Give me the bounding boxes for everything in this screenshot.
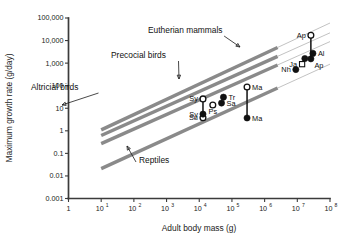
- x-tick-label: 107: [292, 202, 305, 213]
- y-tick-label: 0.01: [50, 171, 64, 180]
- data-point-sy: [200, 111, 206, 117]
- leader-line-altricial-birds: [62, 93, 99, 105]
- x-tick-label: 108: [325, 202, 338, 213]
- data-point-sa: [218, 100, 224, 106]
- svg-text:10: 10: [325, 204, 333, 213]
- point-label-ap: Ap: [314, 61, 323, 70]
- chart-figure: 100,00010,0001,0001001010.10.010.001 110…: [0, 0, 341, 237]
- svg-text:4: 4: [204, 202, 207, 208]
- svg-text:1: 1: [67, 204, 71, 213]
- svg-text:5: 5: [237, 202, 240, 208]
- svg-text:10: 10: [259, 204, 267, 213]
- svg-text:8: 8: [335, 202, 338, 208]
- x-tick-label: 106: [259, 202, 272, 213]
- x-tick-label: 103: [161, 202, 174, 213]
- band-altricial-birds: [101, 65, 277, 144]
- connector-lines: [203, 35, 311, 118]
- svg-text:10: 10: [161, 204, 169, 213]
- x-tick-label: 104: [194, 202, 207, 213]
- x-axis-title: Adult body mass (g): [162, 223, 237, 233]
- leader-line-precocial-birds: [179, 61, 180, 79]
- x-tick-label: 101: [96, 202, 109, 213]
- y-tick-label: 1: [60, 126, 64, 135]
- y-tick-label: 100,000: [38, 13, 64, 22]
- data-point-sy: [200, 96, 206, 102]
- data-point-ma: [244, 84, 250, 90]
- leader-line-eutherian-mammals: [224, 36, 240, 47]
- y-axis-title: Maximum growth rate (g/day): [4, 53, 14, 162]
- point-label-tr: Tr: [228, 93, 235, 102]
- x-tick-label: 105: [226, 202, 239, 213]
- svg-text:10: 10: [194, 204, 202, 213]
- y-tick-label: 1,000: [46, 59, 64, 68]
- band-annotation-precocial-birds: Precocial birds: [111, 50, 166, 60]
- svg-text:7: 7: [302, 202, 305, 208]
- data-point-ap: [302, 55, 308, 61]
- data-point-ja: [299, 62, 304, 67]
- y-axis-ticks: 100,00010,0001,0001001010.10.010.001: [38, 13, 69, 203]
- data-point-al: [310, 50, 316, 56]
- x-tick-label: 102: [128, 202, 141, 213]
- svg-text:10: 10: [226, 204, 234, 213]
- y-tick-label: 0.001: [46, 194, 64, 203]
- leader-arrow-reptiles: [127, 146, 130, 150]
- svg-text:3: 3: [171, 202, 174, 208]
- point-label-ja: Ja: [289, 60, 298, 69]
- band-lines: [101, 23, 330, 169]
- y-tick-label: 10,000: [42, 36, 64, 45]
- point-label-al: Al: [318, 49, 325, 58]
- x-axis-ticks: 1101102103104105106107108: [67, 199, 338, 213]
- point-label-sy: Sy: [189, 110, 198, 119]
- point-label-ps: Ps: [209, 107, 218, 116]
- data-point-ma: [244, 115, 250, 121]
- band-annotation-reptiles: Reptiles: [139, 155, 169, 165]
- svg-text:1: 1: [106, 202, 109, 208]
- point-label-ma: Ma: [252, 83, 263, 92]
- svg-text:10: 10: [292, 204, 300, 213]
- svg-text:6: 6: [269, 202, 272, 208]
- svg-text:10: 10: [128, 204, 136, 213]
- band-annotation-altricial-birds: Altricial birds: [31, 82, 78, 92]
- band-annotation-eutherian-mammals: Eutherian mammals: [148, 25, 222, 35]
- point-label-ap: Ap: [297, 31, 306, 40]
- svg-text:2: 2: [138, 202, 141, 208]
- svg-text:10: 10: [96, 204, 104, 213]
- point-label-sy: Sy: [189, 94, 198, 103]
- axis-spines: [68, 18, 330, 199]
- x-tick-label: 1: [67, 204, 71, 213]
- chart-canvas: 100,00010,0001,0001001010.10.010.001 110…: [0, 0, 341, 237]
- y-tick-label: 0.1: [54, 149, 64, 158]
- data-point-ap: [308, 32, 314, 38]
- point-label-ma: Ma: [252, 114, 263, 123]
